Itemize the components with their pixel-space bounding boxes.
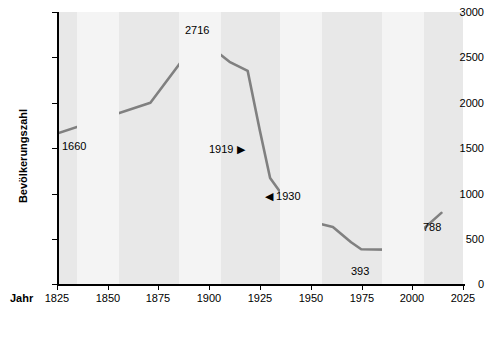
x-tick xyxy=(412,286,413,290)
x-tick-label: 1825 xyxy=(34,292,80,304)
x-tick xyxy=(260,286,261,290)
x-tick-label: 1850 xyxy=(85,292,131,304)
y-tick xyxy=(52,103,57,104)
data-label-788: 788 xyxy=(423,221,441,233)
x-tick xyxy=(158,286,159,290)
x-tick-label: 2025 xyxy=(440,292,486,304)
background-band xyxy=(382,12,424,284)
data-label-393: 393 xyxy=(351,265,369,277)
background-band xyxy=(280,12,322,284)
y-tick-label: 3000 xyxy=(442,7,484,18)
x-tick xyxy=(311,286,312,290)
y-tick xyxy=(52,239,57,240)
y-tick xyxy=(52,57,57,58)
y-tick-label: 2500 xyxy=(442,52,484,63)
x-tick-label: 1950 xyxy=(288,292,334,304)
x-tick xyxy=(362,286,363,290)
data-label-1919: 1919 ▶ xyxy=(209,143,245,155)
x-tick-label: 1875 xyxy=(135,292,181,304)
y-axis-line xyxy=(57,12,59,285)
y-tick xyxy=(52,284,57,285)
plot-area xyxy=(57,12,463,284)
y-tick-label: 2000 xyxy=(442,98,484,109)
x-tick-label: 2000 xyxy=(389,292,435,304)
y-tick-label: 1500 xyxy=(442,143,484,154)
data-label-2716: 2716 xyxy=(185,24,209,36)
data-label-1660: 1660 xyxy=(62,140,86,152)
data-label-1930: ◀ 1930 xyxy=(265,190,301,202)
x-tick-label: 1925 xyxy=(237,292,283,304)
x-tick-label: 1900 xyxy=(186,292,232,304)
y-tick xyxy=(52,12,57,13)
x-tick xyxy=(57,286,58,290)
y-tick-label: 500 xyxy=(442,234,484,245)
x-axis-title: Jahr xyxy=(10,292,33,304)
x-tick xyxy=(463,286,464,290)
x-tick-label: 1975 xyxy=(339,292,385,304)
y-tick xyxy=(52,194,57,195)
x-tick xyxy=(108,286,109,290)
y-tick-label: 1000 xyxy=(442,189,484,200)
x-axis-line xyxy=(57,284,465,286)
y-tick xyxy=(52,148,57,149)
x-tick xyxy=(209,286,210,290)
y-axis-title: Bevölkerungszahl xyxy=(17,86,29,226)
